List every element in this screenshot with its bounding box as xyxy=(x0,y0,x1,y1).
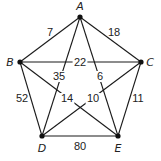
edges-layer xyxy=(20,17,141,136)
weight-label: 52 xyxy=(16,92,28,104)
edge-weight-b-e: 14 xyxy=(60,92,75,104)
edge-weight-a-d: 35 xyxy=(52,70,67,82)
edge-weight-c-e: 11 xyxy=(132,92,143,104)
node-c-label: C xyxy=(146,56,154,69)
node-a-dot xyxy=(77,14,82,19)
edge-weight-a-e: 6 xyxy=(96,70,104,82)
weight-label: 14 xyxy=(61,92,73,104)
node-b-dot xyxy=(17,59,22,64)
edge-a-b xyxy=(20,17,80,62)
weight-label: 35 xyxy=(53,70,65,82)
node-a-label: A xyxy=(75,0,84,13)
graph-svg: 718223565214101180 ABCDE xyxy=(0,0,161,161)
weight-label: 22 xyxy=(74,56,86,68)
edge-weight-d-e: 80 xyxy=(74,140,86,152)
edge-weight-b-c: 22 xyxy=(73,56,88,68)
weight-label: 6 xyxy=(97,70,103,82)
node-b-label: B xyxy=(6,56,14,69)
edge-weight-b-d: 52 xyxy=(16,92,28,104)
edge-weight-a-c: 18 xyxy=(108,26,120,38)
weight-label: 10 xyxy=(87,92,99,104)
edge-a-c xyxy=(80,17,141,62)
node-c-dot xyxy=(138,59,143,64)
graph-diagram: 718223565214101180 ABCDE xyxy=(0,0,161,161)
node-d-label: D xyxy=(38,142,46,155)
edge-weights-layer: 718223565214101180 xyxy=(16,26,144,152)
weight-label: 80 xyxy=(74,140,86,152)
edge-weight-a-b: 7 xyxy=(47,26,53,38)
weight-label: 11 xyxy=(132,92,143,104)
node-e-dot xyxy=(115,133,120,138)
weight-label: 7 xyxy=(47,26,53,38)
weight-label: 18 xyxy=(108,26,120,38)
node-e-label: E xyxy=(115,142,122,155)
nodes-layer: ABCDE xyxy=(6,0,154,155)
node-d-dot xyxy=(39,133,44,138)
edge-weight-c-d: 10 xyxy=(86,92,101,104)
